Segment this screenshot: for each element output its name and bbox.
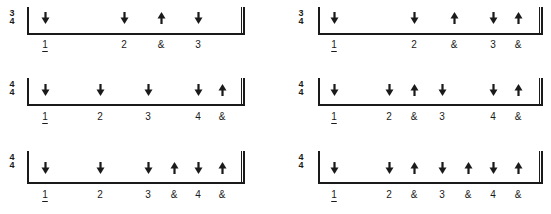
left-barline xyxy=(318,151,320,183)
beat-label: & xyxy=(167,189,181,200)
beat-label: 2 xyxy=(407,39,421,50)
beat-label: 1 xyxy=(38,189,52,200)
time-signature-bottom: 4 xyxy=(7,17,17,25)
beat-label: 3 xyxy=(486,39,500,50)
up-stroke-arrow-icon xyxy=(170,162,179,174)
down-stroke-arrow-icon xyxy=(144,84,153,96)
final-double-barline xyxy=(539,151,543,184)
down-stroke-arrow-icon xyxy=(96,84,105,96)
down-stroke-arrow-icon xyxy=(385,84,394,96)
down-stroke-arrow-icon xyxy=(330,84,339,96)
up-stroke-arrow-icon xyxy=(410,162,419,174)
left-barline xyxy=(318,7,320,34)
beat-label: & xyxy=(511,189,525,200)
down-stroke-arrow-icon xyxy=(438,162,447,174)
beat-label: 2 xyxy=(93,189,107,200)
down-stroke-arrow-icon xyxy=(41,162,50,174)
beat-label: 4 xyxy=(486,189,500,200)
beat-label: 1 xyxy=(327,111,341,122)
up-stroke-arrow-icon xyxy=(157,12,166,24)
final-double-barline xyxy=(241,151,245,184)
time-signature-bottom: 4 xyxy=(7,161,17,169)
down-stroke-arrow-icon xyxy=(194,84,203,96)
down-stroke-arrow-icon xyxy=(330,162,339,174)
measure-baseline xyxy=(318,104,541,106)
measure-baseline xyxy=(318,33,541,35)
beat-label: 3 xyxy=(435,189,449,200)
left-barline xyxy=(27,151,29,183)
up-stroke-arrow-icon xyxy=(514,84,523,96)
beat-label: 1 xyxy=(38,111,52,122)
final-double-barline xyxy=(241,7,245,35)
up-stroke-arrow-icon xyxy=(218,84,227,96)
down-stroke-arrow-icon xyxy=(489,84,498,96)
down-stroke-arrow-icon xyxy=(41,84,50,96)
up-stroke-arrow-icon xyxy=(450,12,459,24)
beat-label: 3 xyxy=(191,39,205,50)
beat-label: 3 xyxy=(141,111,155,122)
down-stroke-arrow-icon xyxy=(144,162,153,174)
time-signature: 34 xyxy=(296,9,306,25)
beat-label: 2 xyxy=(382,111,396,122)
up-stroke-arrow-icon xyxy=(514,162,523,174)
beat-label: 3 xyxy=(435,111,449,122)
final-double-barline xyxy=(539,7,543,35)
time-signature-bottom: 4 xyxy=(7,88,17,96)
beat-label: 4 xyxy=(191,111,205,122)
up-stroke-arrow-icon xyxy=(218,162,227,174)
down-stroke-arrow-icon xyxy=(330,12,339,24)
measure-baseline xyxy=(27,182,243,184)
measure-baseline xyxy=(318,182,541,184)
time-signature: 44 xyxy=(7,80,17,96)
time-signature: 44 xyxy=(7,153,17,169)
beat-label: 1 xyxy=(327,189,341,200)
down-stroke-arrow-icon xyxy=(438,84,447,96)
beat-label: & xyxy=(461,189,475,200)
down-stroke-arrow-icon xyxy=(194,162,203,174)
up-stroke-arrow-icon xyxy=(514,12,523,24)
time-signature: 34 xyxy=(7,9,17,25)
time-signature: 44 xyxy=(296,153,306,169)
measure-baseline xyxy=(27,104,243,106)
beat-label: 4 xyxy=(486,111,500,122)
final-double-barline xyxy=(539,78,543,106)
beat-label: & xyxy=(154,39,168,50)
beat-label: 2 xyxy=(93,111,107,122)
time-signature-bottom: 4 xyxy=(296,161,306,169)
beat-label: & xyxy=(447,39,461,50)
final-double-barline xyxy=(241,78,245,106)
left-barline xyxy=(318,78,320,105)
down-stroke-arrow-icon xyxy=(41,12,50,24)
time-signature-bottom: 4 xyxy=(296,17,306,25)
down-stroke-arrow-icon xyxy=(194,12,203,24)
down-stroke-arrow-icon xyxy=(96,162,105,174)
down-stroke-arrow-icon xyxy=(489,162,498,174)
down-stroke-arrow-icon xyxy=(489,12,498,24)
beat-label: 2 xyxy=(117,39,131,50)
beat-label: & xyxy=(511,111,525,122)
left-barline xyxy=(27,78,29,105)
up-stroke-arrow-icon xyxy=(464,162,473,174)
beat-label: & xyxy=(215,111,229,122)
beat-label: 4 xyxy=(191,189,205,200)
beat-label: 1 xyxy=(38,39,52,50)
down-stroke-arrow-icon xyxy=(410,12,419,24)
time-signature-bottom: 4 xyxy=(296,88,306,96)
beat-label: & xyxy=(215,189,229,200)
measure-baseline xyxy=(27,33,243,35)
beat-label: & xyxy=(407,189,421,200)
beat-label: 2 xyxy=(382,189,396,200)
beat-label: 1 xyxy=(327,39,341,50)
time-signature: 44 xyxy=(296,80,306,96)
up-stroke-arrow-icon xyxy=(410,84,419,96)
left-barline xyxy=(27,7,29,34)
beat-label: & xyxy=(407,111,421,122)
beat-label: & xyxy=(511,39,525,50)
down-stroke-arrow-icon xyxy=(120,12,129,24)
beat-label: 3 xyxy=(141,189,155,200)
down-stroke-arrow-icon xyxy=(385,162,394,174)
